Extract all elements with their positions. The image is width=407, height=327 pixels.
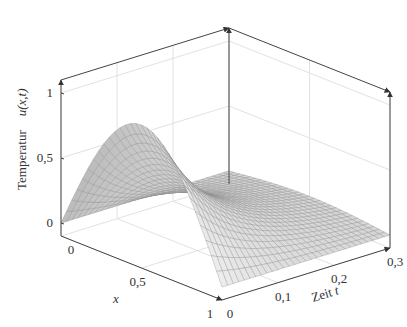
surface-plot: 0 0,5 1 0 0,5 1 0 0,1 0,2 0,3 x Zeitt Te… <box>0 0 407 327</box>
svg-text:Zeitt: Zeitt <box>309 282 340 305</box>
x-tick-label: 1 <box>207 306 214 321</box>
x-tick-label: 0 <box>68 242 75 257</box>
z-axis-title-text: Temperatur <box>14 130 29 190</box>
svg-text:Temperaturu(x,t): Temperaturu(x,t) <box>14 88 29 190</box>
z-tick-label: 0,5 <box>37 150 53 165</box>
wall-gridline <box>61 41 229 93</box>
t-tick-label: 0 <box>227 306 234 321</box>
x-tick-label: 0,5 <box>129 274 145 289</box>
t-axis-title: Zeitt <box>309 282 340 305</box>
t-axis-title-text: Zeit <box>309 284 334 305</box>
z-axis-title-var: u(x,t) <box>14 88 29 116</box>
t-tick-label: 0,1 <box>275 289 291 304</box>
x-axis-title: x <box>112 291 119 306</box>
z-axis-title: Temperaturu(x,t) <box>14 88 29 190</box>
surface <box>61 124 390 287</box>
t-tick-label: 0,3 <box>387 254 403 269</box>
top-edge-left <box>61 28 229 80</box>
x-axis <box>61 236 222 300</box>
z-tick-label: 0 <box>47 215 54 230</box>
z-tick-label: 1 <box>47 85 54 100</box>
